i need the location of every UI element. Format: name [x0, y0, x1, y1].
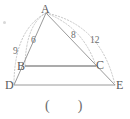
length-label-ad: 9	[13, 47, 18, 57]
vertex-label-c: C	[96, 59, 104, 71]
segment-group	[14, 13, 115, 85]
vertex-label-d: D	[5, 79, 14, 91]
measure-arc-group	[14, 13, 115, 85]
vertex-label-e: E	[116, 79, 123, 91]
geometry-figure: A B C D E 6 9 8 12 ( )	[0, 0, 130, 119]
vertex-label-a: A	[41, 3, 50, 15]
answer-blank[interactable]: ( )	[45, 99, 82, 113]
length-label-ab: 6	[31, 36, 36, 46]
segment-ae	[46, 13, 115, 85]
vertex-label-b: B	[17, 60, 25, 72]
length-label-ae: 12	[90, 36, 100, 46]
length-label-ac: 8	[71, 31, 76, 41]
